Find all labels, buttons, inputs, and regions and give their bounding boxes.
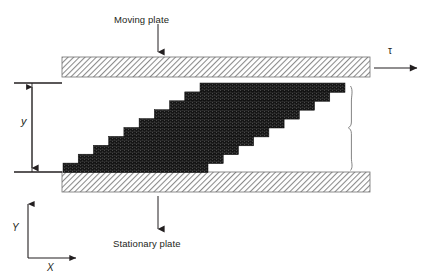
velocity-profile-brace: [348, 86, 352, 171]
moving-plate-label: Moving plate: [114, 14, 169, 25]
fluid-layer-row: [109, 136, 254, 145]
stationary-plate: [62, 172, 370, 192]
fluid-layers-parallelogram: [63, 83, 345, 173]
fluid-layer-row: [78, 154, 223, 163]
fluid-layer-row: [124, 128, 269, 137]
axis-x-label: X: [47, 262, 54, 273]
moving-plate: [62, 57, 370, 77]
stationary-plate-body: [62, 172, 370, 192]
fluid-layer-row: [63, 163, 208, 172]
fluid-layer-row: [185, 92, 330, 101]
fluid-layer-row: [139, 119, 284, 128]
fluid-layer-row: [154, 110, 299, 119]
stationary-plate-label: Stationary plate: [113, 238, 181, 249]
shear-stress-symbol-label: τ: [388, 45, 392, 56]
gap-dimension: [14, 83, 62, 172]
gap-dimension-label: y: [21, 115, 27, 127]
fluid-layer-row: [93, 145, 238, 154]
moving-plate-body: [62, 57, 370, 77]
viscosity-shear-diagram: Moving plate Stationary plate τ y Y X: [0, 0, 425, 278]
fluid-layer-row: [200, 83, 345, 92]
fluid-layer-row: [170, 101, 315, 110]
axis-y-label: Y: [12, 222, 19, 233]
diagram-canvas: [0, 0, 425, 278]
coordinate-axis-indicator: [28, 204, 76, 258]
